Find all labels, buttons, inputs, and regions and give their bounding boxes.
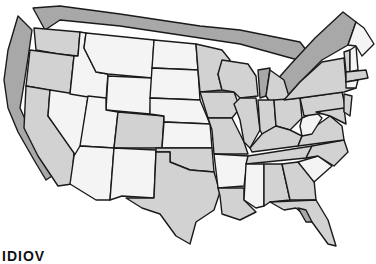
state-arkansas: [214, 154, 248, 188]
state-north-dakota: [152, 40, 198, 70]
state-south-dakota: [150, 68, 200, 100]
state-wyoming: [106, 76, 152, 114]
state-florida: [270, 200, 336, 246]
state-kansas: [162, 122, 212, 148]
state-new-mexico: [110, 148, 156, 200]
state-ohio: [274, 98, 302, 130]
state-colorado: [114, 112, 164, 148]
state-connecticut: [346, 80, 358, 88]
caption-text: IDIOV: [2, 249, 45, 263]
state-arizona: [70, 146, 114, 200]
state-mississippi: [244, 164, 264, 208]
state-new-hampshire: [350, 46, 358, 72]
state-new-jersey: [344, 94, 352, 116]
